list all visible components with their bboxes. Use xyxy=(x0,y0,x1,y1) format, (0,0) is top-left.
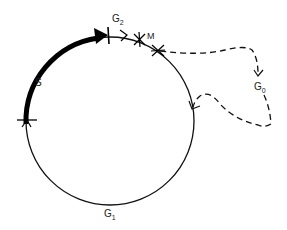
diagram-canvas: S G2 M G0 G1 xyxy=(0,0,287,230)
open-arrow-icon xyxy=(189,101,200,109)
label-g0: G0 xyxy=(254,81,266,94)
open-arrow-icon xyxy=(120,30,127,41)
dashed-path-g0 xyxy=(160,48,258,75)
label-g1: G1 xyxy=(104,208,116,221)
filled-arrowhead-icon xyxy=(94,28,108,44)
label-g2: G2 xyxy=(112,13,124,26)
dashed-path-g0-return xyxy=(193,94,271,126)
label-m: M xyxy=(147,31,155,41)
label-s: S xyxy=(35,77,42,88)
star-mark-icon xyxy=(151,45,165,56)
star-mark-icon xyxy=(134,32,145,47)
arrow-stop-bar xyxy=(108,27,109,44)
